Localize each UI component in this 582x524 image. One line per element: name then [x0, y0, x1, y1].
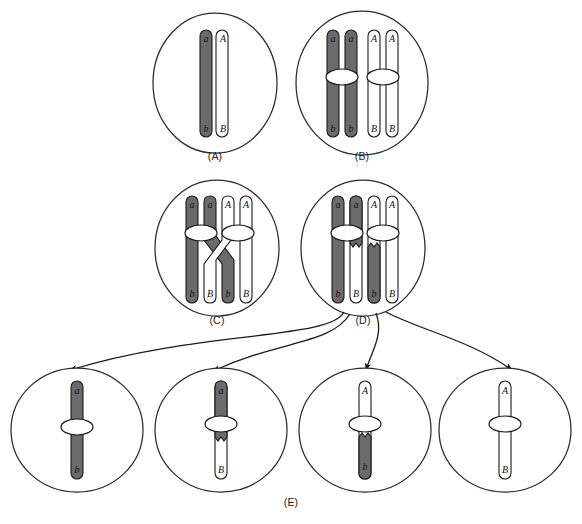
arrow-group — [70, 312, 512, 371]
gamete-recombinant-aB: a B — [155, 368, 287, 492]
panel-E-gametes: a b a B A b A B — [11, 368, 571, 492]
allele-bottom-gamete-1: b — [75, 464, 80, 475]
cell-membrane-B — [296, 11, 428, 155]
panel-label-D: (D) — [333, 314, 393, 326]
gamete-parental-AB: A B — [439, 368, 571, 492]
allele-A3-top-B: A — [370, 33, 378, 44]
allele-a2-top-B: a — [349, 33, 354, 44]
allele-a2-top-D: a — [354, 199, 359, 210]
panel-label-A: (A) — [185, 150, 245, 162]
allele-bottom-3-C: b — [226, 288, 231, 299]
allele-b2-bottom-B: b — [349, 123, 354, 134]
panel-D: a a A A b B b B — [301, 180, 425, 316]
allele-bottom-gamete-3: b — [363, 461, 368, 472]
allele-b1-bottom-D: b — [336, 288, 341, 299]
centromere-light-D — [367, 225, 399, 241]
allele-A3-top-C: A — [224, 199, 232, 210]
allele-bottom-gamete-4: B — [502, 464, 508, 475]
allele-A4-top-B: A — [388, 33, 396, 44]
centromere-dark-D — [331, 225, 363, 241]
panel-label-C: (C) — [187, 314, 247, 326]
panel-label-B: (B) — [332, 150, 392, 162]
cell-membrane-D — [301, 180, 425, 316]
allele-A-top-A: A — [219, 33, 227, 44]
centromere-gamete-1 — [61, 419, 93, 435]
allele-a2-top-C: a — [208, 199, 213, 210]
chromosome-paternal-A — [216, 30, 228, 137]
allele-B4-bottom-D: B — [389, 288, 395, 299]
allele-b3-bottom-D: b — [372, 288, 377, 299]
centromere-gamete-4 — [489, 416, 521, 432]
chromatid-1-C — [186, 196, 198, 303]
allele-top-gamete-4: A — [501, 385, 509, 396]
chromatid-4-D — [386, 196, 398, 303]
figure-canvas: .cell{fill:#fff;stroke:#2a2a2a;stroke-wi… — [0, 0, 582, 524]
allele-a1-top-B: a — [331, 33, 336, 44]
allele-bottom-gamete-2: B — [218, 464, 224, 475]
allele-b1-bottom-B: b — [331, 123, 336, 134]
allele-B2-bottom-D: B — [353, 288, 359, 299]
centromere-dark-C — [185, 225, 217, 241]
gamete-recombinant-Ab: A b — [299, 368, 431, 492]
allele-bottom-1-C: b — [190, 288, 195, 299]
panel-A: a b A B — [153, 13, 277, 153]
allele-top-gamete-1: a — [75, 385, 80, 396]
allele-a-top-A: a — [204, 33, 209, 44]
allele-B-bottom-A: B — [220, 123, 226, 134]
panel-B: a a A A b b B B — [296, 11, 428, 155]
chromatid-1-D — [332, 196, 344, 303]
allele-A4-top-D: A — [388, 199, 396, 210]
centromere-dark-B — [326, 69, 358, 85]
allele-B3-bottom-B: B — [371, 123, 377, 134]
allele-top-gamete-3: A — [361, 385, 369, 396]
allele-A4-top-C: A — [242, 199, 250, 210]
panel-label-E: (E) — [261, 496, 321, 508]
centromere-light-C — [222, 225, 254, 241]
allele-A3-top-D: A — [370, 199, 378, 210]
centromere-gamete-2 — [205, 416, 237, 432]
allele-top-gamete-2: a — [219, 385, 224, 396]
arrow-to-gamete-4 — [386, 312, 512, 370]
panel-C: a a A A b B b B — [155, 180, 279, 316]
chromosome-gamete-3-dark-segment — [359, 433, 371, 479]
chromatid-4-C — [240, 196, 252, 303]
allele-bottom-2-C: B — [207, 288, 213, 299]
allele-b-bottom-A: b — [204, 123, 209, 134]
allele-bottom-4-C: B — [243, 288, 249, 299]
allele-a1-top-D: a — [336, 199, 341, 210]
chromosome-maternal-A — [200, 30, 212, 137]
allele-a1-top-C: a — [190, 199, 195, 210]
gamete-parental-ab: a b — [11, 368, 143, 492]
allele-B4-bottom-B: B — [389, 123, 395, 134]
meiosis-diagram-svg: .cell{fill:#fff;stroke:#2a2a2a;stroke-wi… — [0, 0, 582, 524]
cell-membrane-A — [153, 13, 277, 153]
centromere-gamete-3 — [349, 416, 381, 432]
centromere-light-B — [367, 69, 399, 85]
